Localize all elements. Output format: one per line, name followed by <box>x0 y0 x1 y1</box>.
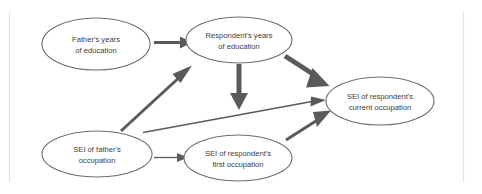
node-respondent-current-occupation[interactable]: SEI of respondent's current occupation <box>326 77 434 125</box>
edge-father-occ-to-first-occ <box>154 153 188 162</box>
node-father-occupation[interactable]: SEI of father's occupation <box>42 131 152 177</box>
node-respondent-current-occupation-line1: SEI of respondent's <box>347 92 413 101</box>
node-father-occupation-line2: occupation <box>79 156 116 165</box>
edge-first-occ-to-current-occ <box>286 111 331 141</box>
node-respondent-education[interactable]: Respondent's years of education <box>186 17 292 63</box>
node-respondent-education-line1: Respondent's years <box>206 31 273 40</box>
node-father-education[interactable]: Father's years of education <box>42 18 150 70</box>
node-father-education-line1: Father's years <box>72 35 120 44</box>
node-respondent-first-occupation[interactable]: SEI of respondent's first occupation <box>184 135 292 181</box>
path-diagram-figure: Father's years of education Respondent's… <box>0 0 482 194</box>
edge-resp-edu-to-current-occ <box>285 56 330 88</box>
edge-father-occ-to-resp-edu <box>121 66 192 132</box>
node-father-education-line2: of education <box>75 46 116 55</box>
node-father-occupation-line1: SEI of father's <box>73 145 121 154</box>
node-respondent-current-occupation-line2: current occupation <box>349 103 411 112</box>
diagram-canvas: Father's years of education Respondent's… <box>0 0 482 194</box>
node-respondent-first-occupation-line2: first occupation <box>212 160 263 169</box>
node-respondent-education-line2: of education <box>218 42 259 51</box>
edge-resp-edu-to-first-occ <box>230 64 248 110</box>
node-respondent-first-occupation-line1: SEI of respondent's <box>205 149 271 158</box>
edge-father-occ-to-current-occ <box>143 97 326 133</box>
